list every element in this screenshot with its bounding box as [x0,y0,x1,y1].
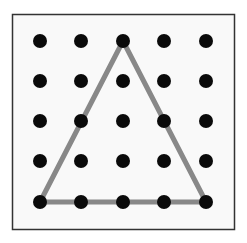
peg-dot [199,154,213,168]
peg-dot [74,114,88,128]
peg-dot [157,114,171,128]
peg-dot [116,114,130,128]
peg-dot [33,34,47,48]
peg-dot [199,114,213,128]
peg-dot [199,195,213,209]
peg-dot [157,154,171,168]
peg-dot [33,154,47,168]
peg-dot [199,74,213,88]
peg-dot [199,34,213,48]
peg-dot [74,74,88,88]
peg-dot [157,195,171,209]
peg-dot [116,154,130,168]
peg-dot [74,195,88,209]
geoboard [0,0,247,243]
peg-dot [116,74,130,88]
peg-dot [33,195,47,209]
peg-dot [33,114,47,128]
peg-dot [157,74,171,88]
peg-dot [74,154,88,168]
peg-dot [116,195,130,209]
peg-dot [74,34,88,48]
peg-dot [157,34,171,48]
peg-dot [116,34,130,48]
peg-dot [33,74,47,88]
